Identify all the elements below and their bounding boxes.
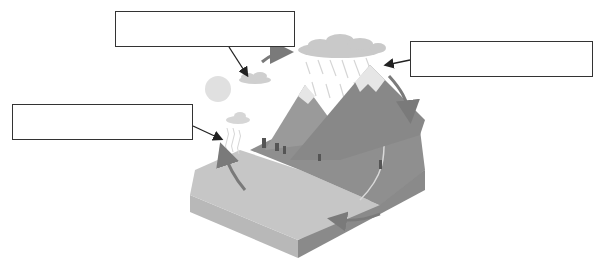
label-box-condensation[interactable]	[115, 11, 295, 47]
pointer-evaporation	[193, 126, 221, 139]
cloud-icon	[226, 112, 250, 124]
rain-cloud-icon	[298, 34, 386, 58]
pointer-condensation	[229, 47, 247, 75]
label-box-evaporation[interactable]	[12, 104, 193, 140]
sun-icon	[205, 76, 231, 102]
arrow-transport	[262, 52, 288, 62]
cloud-icon	[239, 72, 271, 84]
label-box-precipitation[interactable]	[410, 41, 593, 77]
pointer-precipitation	[386, 60, 410, 65]
evaporation-wisps	[226, 128, 241, 154]
